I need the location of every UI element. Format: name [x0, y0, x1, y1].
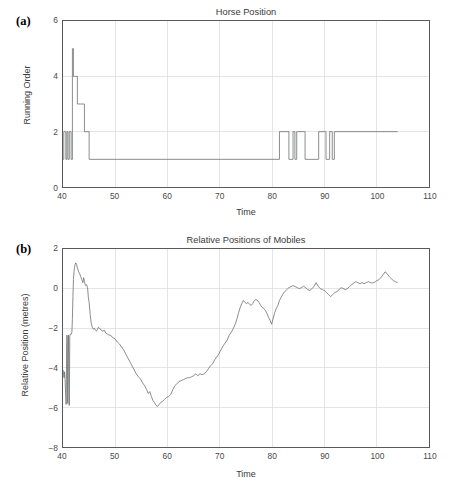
ytick-label: 2	[36, 127, 58, 137]
chart-title-relative-positions: Relative Positions of Mobiles	[62, 235, 430, 245]
chart-title-horse-position: Horse Position	[62, 7, 430, 17]
xtick-label: 110	[417, 191, 443, 201]
data-series-line	[63, 263, 398, 407]
xtick-label: 80	[259, 451, 285, 461]
xtick-label: 90	[312, 191, 338, 201]
ytick-label: 0	[36, 283, 58, 293]
yaxis-title-b: Relative Position (metres)	[20, 245, 30, 445]
xtick-label: 100	[364, 451, 390, 461]
panel-horse-position: (a) Horse Position Time Running Order 40…	[0, 0, 456, 232]
ytick-label: −2	[36, 323, 58, 333]
xtick-label: 70	[207, 451, 233, 461]
plot-svg-horse-position	[63, 21, 429, 187]
plot-svg-relative-positions	[63, 249, 429, 447]
plot-area-relative-positions	[62, 248, 430, 448]
ytick-label: −6	[36, 403, 58, 413]
xtick-label: 80	[259, 191, 285, 201]
ytick-label: 6	[36, 15, 58, 25]
xtick-label: 50	[102, 451, 128, 461]
xtick-label: 40	[49, 191, 75, 201]
yaxis-title-a: Running Order	[22, 30, 32, 160]
ytick-label: 4	[36, 71, 58, 81]
xtick-label: 90	[312, 451, 338, 461]
ytick-label: 0	[36, 183, 58, 193]
xtick-label: 100	[364, 191, 390, 201]
panel-label-a: (a)	[16, 14, 31, 29]
xtick-label: 110	[417, 451, 443, 461]
xtick-label: 70	[207, 191, 233, 201]
xaxis-title-b: Time	[62, 469, 430, 479]
xtick-label: 40	[49, 451, 75, 461]
ytick-label: −8	[36, 443, 58, 453]
xtick-label: 60	[154, 191, 180, 201]
data-series-line	[63, 49, 398, 160]
xaxis-title-a: Time	[62, 207, 430, 217]
xtick-label: 50	[102, 191, 128, 201]
ytick-label: 2	[36, 243, 58, 253]
panel-relative-positions: (b) Relative Positions of Mobiles Time R…	[0, 230, 456, 484]
figure-container: (a) Horse Position Time Running Order 40…	[0, 0, 456, 484]
xtick-label: 60	[154, 451, 180, 461]
plot-area-horse-position	[62, 20, 430, 188]
ytick-label: −4	[36, 363, 58, 373]
